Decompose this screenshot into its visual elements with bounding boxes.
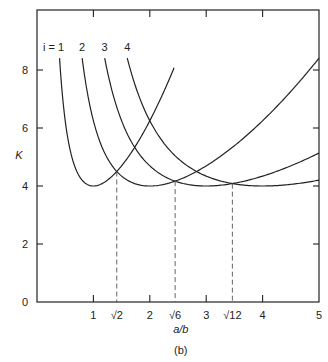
x-tick-label: 3 bbox=[203, 309, 209, 321]
curves bbox=[60, 58, 319, 186]
y-axis-title: K bbox=[15, 149, 23, 161]
x-tick-label: √2 bbox=[111, 309, 123, 321]
x-tick-label: 4 bbox=[260, 309, 266, 321]
x-tick-label: 1 bbox=[90, 309, 96, 321]
plot-frame bbox=[37, 10, 319, 302]
series-label-1: i = 1 bbox=[43, 41, 64, 53]
axis-ticks bbox=[37, 10, 319, 302]
reference-lines bbox=[117, 172, 233, 303]
curve-i-1 bbox=[60, 58, 174, 186]
curve-i-3 bbox=[105, 58, 319, 186]
figure-caption: (b) bbox=[174, 344, 187, 356]
y-tick-label: 4 bbox=[22, 180, 28, 192]
curve-i-4 bbox=[127, 58, 319, 186]
y-tick-label: 8 bbox=[22, 64, 28, 76]
series-label-3: 3 bbox=[102, 41, 108, 53]
x-tick-label: √6 bbox=[169, 309, 181, 321]
curve-i-2 bbox=[82, 58, 319, 186]
x-tick-label: √12 bbox=[223, 309, 241, 321]
y-tick-label: 2 bbox=[22, 238, 28, 250]
y-tick-label: 6 bbox=[22, 122, 28, 134]
y-tick-label: 0 bbox=[22, 296, 28, 308]
series-label-2: 2 bbox=[79, 41, 85, 53]
buckling-coefficient-chart: 024681√22√63√1245i = 1234Ka/b(b) bbox=[0, 0, 328, 362]
series-label-4: 4 bbox=[124, 41, 130, 53]
plot-border bbox=[37, 10, 319, 302]
x-tick-label: 2 bbox=[147, 309, 153, 321]
x-axis-title: a/b bbox=[173, 323, 188, 335]
x-tick-label: 5 bbox=[316, 309, 322, 321]
